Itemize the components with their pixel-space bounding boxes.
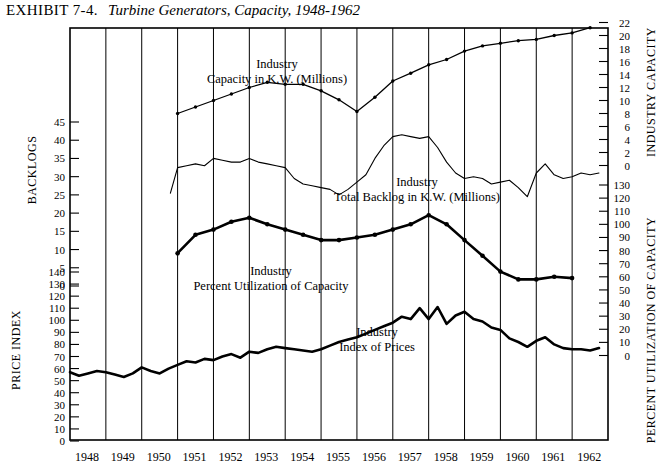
right-upper-axis-name: INDUSTRY CAPACITY xyxy=(644,27,658,157)
y-tick-label-right: 18 xyxy=(619,43,631,55)
y-tick-label-left: 80 xyxy=(54,338,66,350)
y-tick-label-left: 120 xyxy=(49,290,66,302)
y-tick-label-left: 45 xyxy=(54,116,66,128)
series-line-0 xyxy=(178,28,590,114)
annotation-backlog: Industry xyxy=(396,175,438,189)
y-tick-label-left: 50 xyxy=(54,375,66,387)
y-tick-label-right: 0 xyxy=(625,160,631,172)
series-marker-0 xyxy=(391,79,394,82)
y-tick-label-right: 12 xyxy=(619,82,630,94)
y-tick-label-left: 25 xyxy=(54,189,66,201)
series-marker-2 xyxy=(247,216,252,221)
y-tick-label-left: 0 xyxy=(60,435,66,447)
x-tick-label: 1951 xyxy=(183,450,207,464)
x-tick-label: 1954 xyxy=(290,450,314,464)
y-tick-label-right: 30 xyxy=(619,310,631,322)
series-marker-0 xyxy=(570,31,573,34)
y-tick-label-right: 10 xyxy=(619,95,631,107)
series-marker-2 xyxy=(534,277,539,282)
series-marker-2 xyxy=(570,276,575,281)
x-tick-label: 1961 xyxy=(541,450,565,464)
y-tick-label-right: 20 xyxy=(619,30,631,42)
series-marker-2 xyxy=(444,222,449,227)
series-marker-2 xyxy=(229,219,234,224)
series-marker-0 xyxy=(212,99,215,102)
y-tick-label-right: 60 xyxy=(619,271,631,283)
series-marker-2 xyxy=(391,227,396,232)
x-tick-label: 1953 xyxy=(254,450,278,464)
y-tick-label-right: 2 xyxy=(625,147,631,159)
y-tick-label-left: 100 xyxy=(49,314,66,326)
series-marker-2 xyxy=(498,269,503,274)
y-tick-label-right: 14 xyxy=(619,69,631,81)
y-tick-label-left: 30 xyxy=(54,171,66,183)
y-tick-label-right: 10 xyxy=(619,336,631,348)
y-tick-label-left: 140 xyxy=(49,266,66,278)
y-tick-label-left: 10 xyxy=(54,423,66,435)
y-tick-label-right: 90 xyxy=(619,231,631,243)
series-marker-0 xyxy=(373,96,376,99)
y-tick-label-right: 22 xyxy=(619,17,630,29)
series-marker-0 xyxy=(463,49,466,52)
series-marker-2 xyxy=(319,238,324,243)
series-line-3 xyxy=(70,307,599,377)
series-marker-2 xyxy=(480,254,485,259)
y-tick-label-left: 90 xyxy=(54,326,66,338)
annotation-prices: Industry xyxy=(356,325,398,339)
series-marker-2 xyxy=(283,227,288,232)
series-marker-2 xyxy=(301,233,306,238)
series-marker-0 xyxy=(499,42,502,45)
y-tick-label-left: 40 xyxy=(54,387,66,399)
series-marker-0 xyxy=(409,72,412,75)
x-tick-label: 1950 xyxy=(147,450,171,464)
x-axis-year-labels: 1948194919501951195219531954195519561957… xyxy=(75,450,601,464)
series-marker-0 xyxy=(427,63,430,66)
y-tick-label-right: 110 xyxy=(614,205,631,217)
y-tick-label-left: 30 xyxy=(54,399,66,411)
series-marker-2 xyxy=(516,277,521,282)
y-tick-label-right: 20 xyxy=(619,323,631,335)
y-tick-label-left: 20 xyxy=(54,207,66,219)
plot-frame xyxy=(70,28,608,440)
series-marker-2 xyxy=(265,222,270,227)
series-marker-0 xyxy=(319,89,322,92)
x-tick-label: 1949 xyxy=(111,450,135,464)
series-line-2 xyxy=(178,215,572,279)
y-tick-label-left: 40 xyxy=(54,134,66,146)
series-marker-0 xyxy=(194,105,197,108)
y-tick-label-left: 130 xyxy=(49,278,66,290)
annotation-capacity: Industry xyxy=(256,57,298,71)
y-tick-label-right: 40 xyxy=(619,297,631,309)
y-tick-label-right: 6 xyxy=(625,121,631,133)
y-tick-label-right: 50 xyxy=(619,284,631,296)
series-marker-0 xyxy=(517,39,520,42)
series-marker-0 xyxy=(535,38,538,41)
y-tick-label-left: 110 xyxy=(49,302,66,314)
series-marker-0 xyxy=(248,86,251,89)
series-marker-0 xyxy=(355,110,358,113)
series-marker-2 xyxy=(355,235,360,240)
x-tick-label: 1948 xyxy=(75,450,99,464)
annotation-backlog: Total Backlog in K.W. (Millions) xyxy=(334,190,500,204)
y-tick-label-left: 35 xyxy=(54,152,66,164)
y-tick-label-right: 4 xyxy=(625,134,631,146)
series-marker-0 xyxy=(588,26,591,29)
annotation-prices: Index of Prices xyxy=(339,340,415,354)
x-tick-label: 1956 xyxy=(362,450,386,464)
series-marker-0 xyxy=(337,98,340,101)
series-marker-2 xyxy=(211,227,216,232)
y-tick-label-left: 20 xyxy=(54,411,66,423)
series-marker-2 xyxy=(337,238,342,243)
series-marker-2 xyxy=(175,251,180,256)
y-tick-label-right: 70 xyxy=(619,258,631,270)
left-upper-axis-name: BACKLOGS xyxy=(25,136,39,205)
annotation-capacity: Capacity in K.W. (Millions) xyxy=(207,72,347,86)
y-tick-label-right: 120 xyxy=(614,192,631,204)
y-tick-label-right: 16 xyxy=(619,56,631,68)
series-marker-0 xyxy=(481,44,484,47)
y-tick-label-right: 130 xyxy=(614,179,631,191)
x-tick-label: 1952 xyxy=(218,450,242,464)
annotation-utilization: Percent Utilization of Capacity xyxy=(193,279,349,293)
y-tick-label-left: 70 xyxy=(54,351,66,363)
series-marker-0 xyxy=(176,112,179,115)
